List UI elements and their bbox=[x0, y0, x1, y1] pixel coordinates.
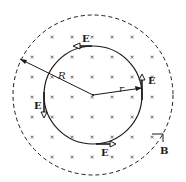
field-marker-x: × bbox=[129, 153, 134, 160]
field-marker-x: × bbox=[49, 53, 54, 60]
e-arrowhead-bottom bbox=[110, 141, 116, 147]
b-field-label: B bbox=[160, 146, 168, 156]
field-marker-x: × bbox=[129, 93, 134, 100]
field-marker-x: × bbox=[89, 133, 94, 140]
field-marker-x: × bbox=[69, 53, 74, 60]
field-marker-x: × bbox=[109, 153, 114, 160]
field-marker-x: × bbox=[49, 153, 54, 160]
e-arrowhead-left bbox=[41, 112, 47, 118]
e-label-bottom: E bbox=[101, 148, 109, 158]
field-marker-x: × bbox=[129, 113, 134, 120]
field-marker-x: × bbox=[109, 133, 114, 140]
diagram-canvas: ××××××××××××××××××××××××××××××××××××××××… bbox=[0, 0, 186, 182]
field-marker-x: × bbox=[149, 113, 154, 120]
field-marker-x: × bbox=[69, 33, 74, 40]
field-marker-x: × bbox=[89, 33, 94, 40]
e-arrowhead-right bbox=[139, 74, 145, 80]
center-point bbox=[92, 94, 94, 96]
field-marker-x: × bbox=[109, 113, 114, 120]
field-marker-x: × bbox=[29, 73, 34, 80]
field-marker-x: × bbox=[29, 113, 34, 120]
e-label-right: E bbox=[148, 76, 156, 86]
field-marker-x: × bbox=[49, 133, 54, 140]
field-marker-x: × bbox=[29, 93, 34, 100]
field-diagram: ××××××××××××××××××××××××××××××××××××××××… bbox=[0, 0, 186, 182]
field-marker-x: × bbox=[109, 93, 114, 100]
e-label-left: E bbox=[34, 101, 42, 111]
field-marker-x: × bbox=[49, 113, 54, 120]
field-marker-x: × bbox=[69, 153, 74, 160]
field-marker-x: × bbox=[129, 53, 134, 60]
field-marker-x: × bbox=[69, 93, 74, 100]
inner-radius-line bbox=[93, 88, 142, 95]
outer-radius-label: R bbox=[58, 71, 66, 81]
field-marker-x: × bbox=[29, 53, 34, 60]
field-marker-x: × bbox=[29, 133, 34, 140]
field-marker-x: × bbox=[149, 53, 154, 60]
field-markers: ××××××××××××××××××××××××××××××××××××××××… bbox=[29, 33, 154, 160]
e-arrowhead-top bbox=[73, 43, 80, 49]
field-marker-x: × bbox=[109, 73, 114, 80]
outer-radius-arrowhead bbox=[20, 59, 27, 64]
e-label-top: E bbox=[82, 34, 90, 44]
field-marker-x: × bbox=[49, 93, 54, 100]
inner-radius-label: r bbox=[119, 84, 124, 94]
field-marker-x: × bbox=[89, 153, 94, 160]
field-marker-x: × bbox=[109, 33, 114, 40]
field-marker-x: × bbox=[89, 113, 94, 120]
field-marker-x: × bbox=[89, 53, 94, 60]
field-marker-x: × bbox=[129, 73, 134, 80]
field-marker-x: × bbox=[69, 73, 74, 80]
field-marker-x: × bbox=[69, 133, 74, 140]
field-marker-x: × bbox=[89, 73, 94, 80]
field-marker-x: × bbox=[149, 93, 154, 100]
field-marker-x: × bbox=[109, 53, 114, 60]
field-marker-x: × bbox=[69, 113, 74, 120]
field-marker-x: × bbox=[49, 33, 54, 40]
field-marker-x: × bbox=[129, 33, 134, 40]
field-marker-x: × bbox=[129, 133, 134, 140]
